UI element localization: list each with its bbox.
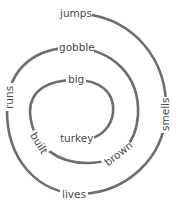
word-built: built — [26, 128, 51, 157]
word-brown: brown — [100, 139, 135, 170]
word-label: brown — [102, 139, 135, 168]
word-runs: runs — [3, 83, 16, 111]
word-label: turkey — [60, 132, 93, 144]
word-label: gobble — [59, 41, 95, 53]
word-label: smells — [159, 98, 171, 131]
word-spiral-diagram: jumps gobble big runs smells built brown… — [0, 0, 178, 207]
word-label: runs — [3, 86, 15, 109]
word-turkey: turkey — [58, 131, 94, 145]
word-gobble: gobble — [58, 41, 95, 54]
word-label: big — [68, 73, 84, 85]
word-jumps: jumps — [58, 7, 92, 20]
word-label: jumps — [59, 7, 92, 19]
word-smells: smells — [159, 97, 172, 133]
word-big: big — [66, 73, 86, 86]
word-lives: lives — [60, 188, 88, 201]
word-label: lives — [62, 188, 86, 200]
